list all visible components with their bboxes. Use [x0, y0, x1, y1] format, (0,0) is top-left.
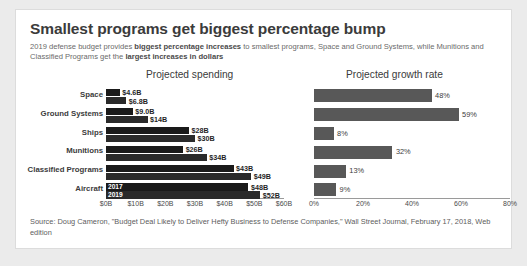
category-label: Aircraft: [75, 180, 103, 199]
bar-2019: [106, 116, 148, 123]
x-tick-label: $40B: [216, 200, 232, 207]
bar-group: $9.0B$14B: [106, 105, 284, 124]
bar-2017: [106, 165, 234, 172]
bar-group: 8%: [314, 124, 510, 143]
bar-group: $28B$30B: [106, 124, 284, 143]
bar-value-label: 48%: [435, 92, 450, 99]
x-tick-label: $10B: [127, 200, 143, 207]
bar-growth: [314, 127, 334, 140]
chart-subtitle: 2019 defense budget provides biggest per…: [30, 42, 500, 63]
chart-card: Smallest programs get biggest percentage…: [15, 9, 512, 249]
bar-group: 32%: [314, 142, 510, 161]
bar-value-label: $6.8B: [129, 98, 148, 105]
bar-value-label: 13%: [349, 167, 364, 174]
x-tick-label: $20B: [157, 200, 173, 207]
bar-value-label: $34B: [209, 154, 226, 161]
subtitle-run-3: largest increases in dollars: [125, 52, 223, 61]
bar-group: 48%: [314, 86, 510, 105]
bar-value-label: 32%: [396, 148, 411, 155]
x-tick-label: $60B: [276, 200, 292, 207]
x-axis-ticks-growth: 0%20%40%60%80%: [314, 200, 510, 212]
category-label: Munitions: [66, 142, 103, 161]
bar-growth: [314, 183, 336, 196]
bar-value-label: $30B: [198, 135, 215, 142]
bar-group: 9%: [314, 180, 510, 199]
bar-value-label: $43B: [236, 165, 253, 172]
source-note: Source: Doug Cameron, "Budget Deal Likel…: [30, 217, 500, 238]
growth-chart-plot: 48%59%8%32%13%9%: [314, 86, 510, 199]
x-tick-label: 20%: [356, 200, 370, 207]
bar-value-label: $4.6B: [122, 89, 141, 96]
legend-label-2017: 2017: [108, 184, 123, 191]
x-tick-label: $0B: [100, 200, 112, 207]
bar-2017: [106, 183, 248, 190]
x-tick-label: 60%: [454, 200, 468, 207]
spending-chart-plot: $4.6B$6.8B$9.0B$14B$28B$30B$26B$34B$43B$…: [106, 86, 284, 199]
bar-group: $26B$34B: [106, 142, 284, 161]
bar-2017: [106, 108, 133, 115]
panel-title-spending: Projected spending: [146, 69, 233, 80]
page-title: Smallest programs get biggest percentage…: [30, 20, 386, 38]
bar-value-label: $49B: [254, 173, 271, 180]
category-label: Space: [80, 86, 103, 105]
subtitle-run-1: biggest percentage increases: [134, 42, 241, 51]
x-tick-label: 80%: [503, 200, 517, 207]
bar-value-label: $14B: [150, 116, 167, 123]
bar-growth: [314, 146, 392, 159]
category-label: Ships: [82, 124, 103, 143]
bar-growth: [314, 165, 346, 178]
bar-value-label: 9%: [340, 186, 351, 193]
bar-2019: [106, 135, 195, 142]
bar-2017: [106, 127, 189, 134]
bar-group: $4.6B$6.8B: [106, 86, 284, 105]
x-tick-label: $30B: [187, 200, 203, 207]
bar-value-label: 59%: [462, 111, 477, 118]
category-axis-labels: SpaceGround SystemsShipsMunitionsClassif…: [30, 86, 103, 199]
bar-group: 13%: [314, 161, 510, 180]
x-axis-ticks-spending: $0B$10B$20B$30B$40B$50B$60B: [106, 200, 284, 212]
bar-value-label: $48B: [251, 184, 268, 191]
x-tick-label: $50B: [246, 200, 262, 207]
bar-value-label: $28B: [192, 127, 209, 134]
bar-2019: [106, 173, 251, 180]
bar-2019: [106, 97, 126, 104]
bar-growth: [314, 108, 459, 121]
bar-group: $48B2017$52B2019: [106, 180, 284, 199]
x-tick-label: 40%: [405, 200, 419, 207]
legend-label-2019: 2019: [108, 192, 123, 199]
bar-group: $43B$49B: [106, 161, 284, 180]
bar-value-label: $26B: [186, 146, 203, 153]
x-tick-label: 0%: [309, 200, 319, 207]
bar-value-label: $52B: [263, 192, 280, 199]
bar-value-label: 8%: [337, 130, 348, 137]
bar-2019: [106, 154, 207, 161]
bar-value-label: $9.0B: [135, 108, 154, 115]
bar-2017: [106, 146, 183, 153]
bar-2019: [106, 191, 260, 198]
category-label: Classified Programs: [28, 161, 103, 180]
subtitle-run-0: 2019 defense budget provides: [30, 42, 134, 51]
panel-title-growth: Projected growth rate: [346, 69, 443, 80]
category-label: Ground Systems: [41, 105, 103, 124]
bar-growth: [314, 89, 432, 102]
bar-group: 59%: [314, 105, 510, 124]
bar-2017: [106, 89, 120, 96]
